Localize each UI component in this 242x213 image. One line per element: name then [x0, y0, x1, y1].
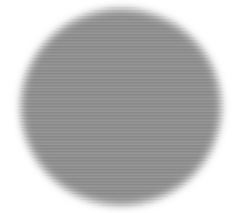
gray-disc: [21, 9, 221, 205]
image-canvas: [0, 0, 242, 213]
